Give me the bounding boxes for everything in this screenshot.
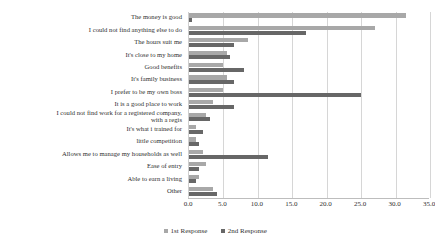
legend-item[interactable]: 2nd Response	[221, 227, 267, 235]
category-label: It's what i trained for	[0, 126, 182, 133]
bar-series1	[189, 187, 213, 191]
bar-series1	[189, 137, 196, 141]
x-tick-label: 15.0	[285, 200, 297, 209]
category-label: It is a good place to work	[0, 101, 182, 108]
category-label: It's family business	[0, 76, 182, 83]
legend-swatch-icon	[221, 229, 225, 233]
category-label: The money is good	[0, 14, 182, 21]
category-label: I could not find anything else to do	[0, 27, 182, 34]
category-label: Ease of entry	[0, 163, 182, 170]
bar-series1	[189, 13, 406, 17]
legend-item[interactable]: 1st Response	[164, 227, 207, 235]
bar-series2	[189, 179, 196, 183]
bar-series1	[189, 26, 375, 30]
x-axis-tick-labels: 0.05.010.015.020.025.030.035.0	[0, 200, 431, 212]
bar-series2	[189, 31, 306, 35]
x-tick-label: 30.0	[388, 200, 400, 209]
category-label: The hours suit me	[0, 39, 182, 46]
bar-series1	[189, 113, 206, 117]
bar-series2	[189, 43, 234, 47]
category-label: I could not find work for a registered c…	[0, 110, 182, 123]
category-label: Allows me to manage my households as wel…	[0, 151, 182, 158]
x-axis-line	[188, 198, 429, 199]
category-label: Good benefits	[0, 64, 182, 71]
gridline	[327, 12, 328, 198]
category-label: Able to earn a living	[0, 176, 182, 183]
gridline	[396, 12, 397, 198]
bar-series1	[189, 88, 223, 92]
category-label: It's close to my home	[0, 52, 182, 59]
bar-series1	[189, 125, 196, 129]
gridline	[292, 12, 293, 198]
legend-label: 2nd Response	[228, 227, 267, 235]
bar-series2	[189, 68, 244, 72]
category-label: I prefer to be my own boss	[0, 89, 182, 96]
x-tick-label: 0.0	[184, 200, 193, 209]
legend-label: 1st Response	[171, 227, 208, 235]
bar-series1	[189, 75, 227, 79]
x-tick-label: 35.0	[423, 200, 435, 209]
chart-legend: 1st Response2nd Response	[0, 224, 431, 238]
gridline	[258, 12, 259, 198]
x-tick-label: 10.0	[251, 200, 263, 209]
legend-swatch-icon	[164, 229, 168, 233]
x-tick-label: 5.0	[218, 200, 227, 209]
bar-series2	[189, 93, 361, 97]
gridline	[430, 12, 431, 198]
bar-series1	[189, 38, 248, 42]
bar-series2	[189, 142, 199, 146]
category-label: little competition	[0, 138, 182, 145]
bar-series2	[189, 192, 217, 196]
bar-series1	[189, 51, 227, 55]
bar-series2	[189, 117, 210, 121]
x-tick-label: 20.0	[320, 200, 332, 209]
bar-series1	[189, 150, 203, 154]
bar-series1	[189, 175, 199, 179]
category-label: Other	[0, 188, 182, 195]
bar-series2	[189, 167, 199, 171]
bar-series2	[189, 80, 234, 84]
bar-series2	[189, 55, 230, 59]
gridline	[361, 12, 362, 198]
bar-series1	[189, 162, 206, 166]
bar-series1	[189, 63, 223, 67]
bar-series2	[189, 18, 192, 22]
bar-series2	[189, 130, 203, 134]
bar-series2	[189, 105, 234, 109]
category-axis-labels: The money is goodI could not find anythi…	[0, 12, 184, 198]
bar-series2	[189, 155, 268, 159]
bar-series1	[189, 100, 213, 104]
x-tick-label: 25.0	[354, 200, 366, 209]
plot-area	[188, 12, 429, 198]
